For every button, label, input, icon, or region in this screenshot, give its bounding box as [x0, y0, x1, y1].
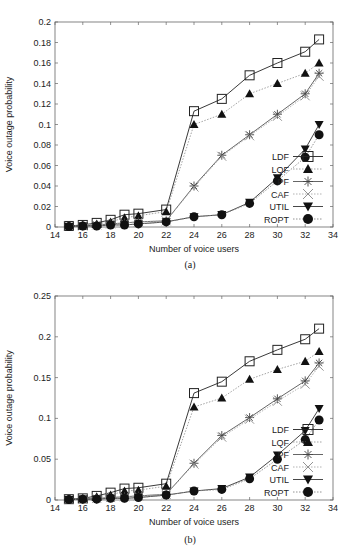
legend-util-marker — [303, 476, 313, 485]
pf-marker — [273, 110, 282, 119]
legend-label: PF — [277, 450, 289, 460]
chart-panel-a: 141618202224262830323400.020.040.060.080… — [0, 0, 360, 272]
x-tick-label: 14 — [50, 230, 60, 240]
ropt-marker — [64, 495, 73, 504]
legend-label: PF — [277, 177, 289, 187]
ropt-marker — [162, 217, 171, 226]
y-tick-label: 0.05 — [33, 454, 51, 464]
legend-item-lqf: LQF — [271, 437, 323, 448]
lqf-marker — [273, 365, 282, 373]
y-tick-label: 0.08 — [33, 140, 51, 150]
x-tick-label: 30 — [272, 230, 282, 240]
legend-item-caf: CAF — [271, 189, 323, 200]
y-tick-label: 0 — [46, 222, 51, 232]
panel-caption: (b) — [184, 534, 196, 546]
y-axis: 00.050.10.150.20.25 — [33, 291, 333, 505]
ldf-marker — [245, 357, 254, 366]
legend-item-ldf: LDF — [272, 152, 323, 163]
legend-item-util: UTIL — [269, 475, 323, 485]
ropt-marker — [190, 212, 199, 221]
x-tick-label: 22 — [161, 503, 171, 513]
y-tick-label: 0.16 — [33, 58, 51, 68]
util-marker — [315, 121, 324, 129]
y-tick-label: 0.1 — [38, 413, 51, 423]
legend-label: CAF — [271, 190, 290, 200]
x-tick-label: 28 — [245, 230, 255, 240]
ropt-marker — [106, 220, 115, 229]
legend-item-pf: PF — [277, 450, 323, 461]
x-tick-label: 28 — [245, 503, 255, 513]
ropt-marker — [78, 495, 87, 504]
legend-item-caf: CAF — [271, 462, 323, 473]
x-tick-label: 20 — [133, 503, 143, 513]
ldf-marker — [301, 335, 310, 344]
y-tick-label: 0.1 — [38, 120, 51, 130]
ldf-marker — [190, 389, 199, 398]
lqf-marker — [315, 59, 324, 67]
x-axis-label: Number of voice users — [149, 244, 240, 254]
ldf-marker — [315, 324, 324, 333]
y-tick-label: 0.04 — [33, 181, 51, 191]
x-tick-label: 24 — [189, 230, 199, 240]
ropt-marker — [92, 495, 101, 504]
legend-item-util: UTIL — [269, 202, 323, 212]
x-tick-label: 34 — [328, 230, 338, 240]
x-tick-label: 16 — [78, 503, 88, 513]
x-tick-label: 20 — [133, 230, 143, 240]
ropt-marker — [315, 130, 324, 139]
y-tick-label: 0.18 — [33, 38, 51, 48]
y-tick-label: 0.06 — [33, 161, 51, 171]
x-tick-label: 18 — [106, 503, 116, 513]
legend-ropt-marker — [303, 487, 313, 497]
ropt-marker — [190, 487, 199, 496]
y-axis-label: Voice outage probability — [4, 350, 14, 446]
ldf-marker — [217, 94, 226, 103]
ropt-marker — [315, 416, 324, 425]
x-tick-label: 32 — [300, 503, 310, 513]
legend-item-ropt: ROPT — [264, 214, 323, 225]
legend-label: LDF — [272, 425, 290, 435]
util-marker — [315, 405, 324, 413]
y-tick-label: 0.14 — [33, 79, 51, 89]
legend: LDFLQFPFCAFUTILROPT — [264, 152, 323, 225]
legend-label: UTIL — [269, 202, 289, 212]
y-axis-label: Voice outage probability — [4, 76, 14, 172]
y-tick-label: 0 — [46, 495, 51, 505]
ldf-marker — [301, 47, 310, 56]
ldf-marker — [273, 345, 282, 354]
x-tick-label: 22 — [161, 230, 171, 240]
lqf-marker — [245, 375, 254, 383]
ropt-marker — [64, 222, 73, 231]
ldf-marker — [190, 107, 199, 116]
legend-item-lqf: LQF — [271, 164, 323, 175]
ropt-marker — [134, 219, 143, 228]
lqf-marker — [245, 89, 254, 97]
legend: LDFLQFPFCAFUTILROPT — [264, 425, 323, 498]
lqf-marker — [301, 357, 310, 365]
pf-marker — [190, 459, 199, 468]
legend-item-pf: PF — [277, 177, 323, 188]
legend-util-marker — [303, 203, 313, 212]
legend-label: ROPT — [264, 488, 290, 498]
ropt-marker — [134, 493, 143, 502]
lqf-marker — [315, 347, 324, 355]
y-tick-label: 0.2 — [38, 17, 51, 27]
pf-marker — [190, 182, 199, 191]
lqf-marker — [217, 394, 226, 402]
x-axis-label: Number of voice users — [149, 517, 240, 527]
ldf-marker — [273, 59, 282, 68]
legend-ldf-marker — [303, 425, 313, 435]
x-tick-label: 26 — [217, 230, 227, 240]
legend-label: LDF — [272, 152, 290, 162]
ldf-marker — [245, 71, 254, 80]
ropt-marker — [217, 485, 226, 494]
x-tick-label: 14 — [50, 503, 60, 513]
legend-ldf-marker — [303, 152, 313, 162]
y-tick-label: 0.25 — [33, 291, 51, 301]
ropt-marker — [245, 474, 254, 483]
ropt-marker — [120, 220, 129, 229]
ropt-marker — [92, 221, 101, 230]
legend-label: LQF — [271, 438, 289, 448]
legend-label: LQF — [271, 165, 289, 175]
y-tick-label: 0.02 — [33, 202, 51, 212]
